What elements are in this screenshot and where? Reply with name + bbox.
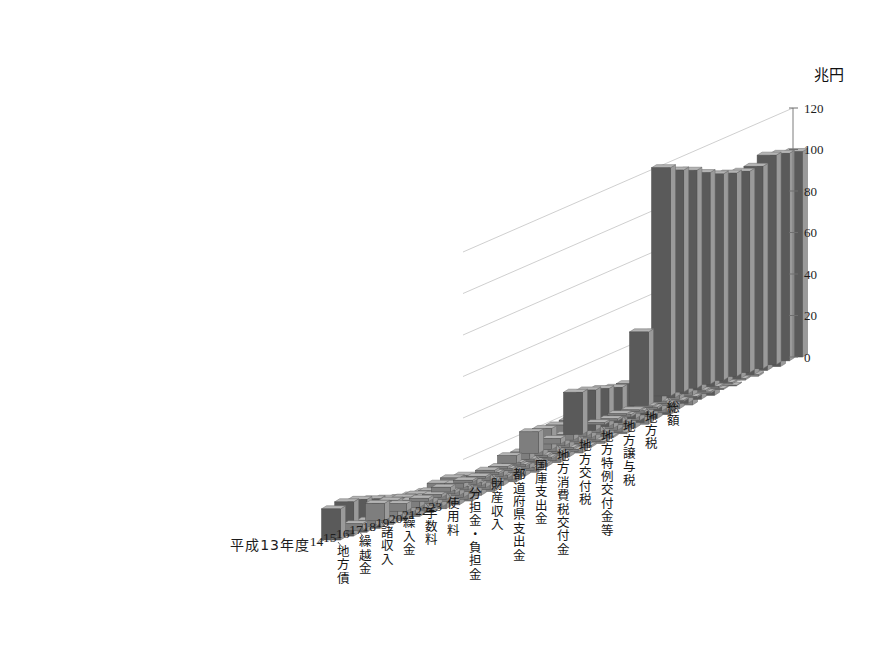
bar bbox=[520, 429, 544, 454]
category-axis-tick-label: 財産収入 bbox=[491, 477, 504, 532]
svg-text:税: 税 bbox=[579, 492, 592, 507]
category-axis-tick-label: 使用料 bbox=[447, 496, 460, 538]
svg-text:金: 金 bbox=[513, 548, 526, 563]
svg-text:金: 金 bbox=[403, 542, 416, 557]
year-axis-tick-label: 20 bbox=[389, 511, 403, 526]
svg-text:等: 等 bbox=[601, 523, 614, 538]
category-axis-tick-label: 地方譲与税 bbox=[623, 419, 636, 488]
category-axis-tick-label: 地方税 bbox=[645, 410, 658, 452]
y-axis-tick-label: 40 bbox=[804, 267, 817, 282]
bar bbox=[542, 436, 566, 444]
category-axis-tick-label: 諸収入 bbox=[381, 525, 394, 567]
year-axis-tick-label: 16 bbox=[336, 526, 350, 541]
svg-text:税: 税 bbox=[645, 436, 658, 451]
category-axis-tick-label: 手数料 bbox=[425, 506, 438, 548]
bar bbox=[652, 165, 676, 396]
svg-text:金: 金 bbox=[359, 561, 372, 576]
category-axis-tick-label: 地方消費税交付金 bbox=[557, 448, 570, 557]
svg-text:額: 額 bbox=[667, 413, 680, 428]
category-axis-tick-label: 分担金・負担金 bbox=[469, 486, 482, 581]
bar bbox=[498, 453, 522, 464]
bar bbox=[454, 477, 478, 482]
y-axis-tick-label: 60 bbox=[804, 225, 817, 240]
bar bbox=[608, 411, 632, 416]
svg-text:債: 債 bbox=[337, 571, 350, 586]
svg-text:入: 入 bbox=[381, 552, 394, 567]
year-axis-tick-label: 15 bbox=[323, 530, 337, 545]
year-axis-tick-label: 18 bbox=[363, 519, 377, 534]
category-axis-tick-label: 地方債 bbox=[337, 544, 350, 586]
bar bbox=[432, 484, 456, 492]
y-axis-tick-label: 80 bbox=[804, 184, 817, 199]
category-axis-tick-label: 総額 bbox=[667, 400, 680, 428]
chart-3d-bar-container: 020406080100120兆円 平成13年度1415161718192021… bbox=[0, 0, 888, 665]
category-axis-tick-label: 都道府県支出金 bbox=[513, 467, 526, 562]
y-axis-tick-label: 120 bbox=[804, 101, 824, 116]
y-axis-unit-label: 兆円 bbox=[814, 66, 844, 84]
y-axis-tick-label: 20 bbox=[804, 308, 817, 323]
bar bbox=[564, 389, 588, 434]
category-axis-tick-label: 地方交付税 bbox=[579, 438, 592, 507]
year-axis-tick-label: 14 bbox=[310, 534, 324, 549]
bar bbox=[476, 467, 500, 473]
category-axis-tick-label: 繰越金 bbox=[359, 534, 372, 576]
chart-3d-bar-svg: 020406080100120兆円 平成13年度1415161718192021… bbox=[0, 0, 888, 665]
svg-text:税: 税 bbox=[623, 473, 636, 488]
svg-text:金: 金 bbox=[557, 542, 570, 557]
bar bbox=[630, 329, 654, 406]
category-axis-tick-label: 国庫支出金 bbox=[535, 458, 548, 527]
svg-text:金: 金 bbox=[535, 511, 548, 526]
y-axis-tick-label: 100 bbox=[804, 142, 824, 157]
bar bbox=[586, 420, 610, 425]
y-axis-tick-label: 0 bbox=[804, 350, 811, 365]
category-axis-tick-label: 地方特例交付金等 bbox=[601, 429, 614, 538]
svg-text:料: 料 bbox=[425, 532, 438, 547]
svg-text:入: 入 bbox=[491, 517, 504, 532]
category-axis-tick-label: 繰入金 bbox=[403, 515, 416, 557]
svg-text:金: 金 bbox=[469, 567, 482, 582]
svg-text:料: 料 bbox=[447, 523, 460, 538]
year-axis-tick-label: 平成13年度 bbox=[230, 537, 310, 553]
